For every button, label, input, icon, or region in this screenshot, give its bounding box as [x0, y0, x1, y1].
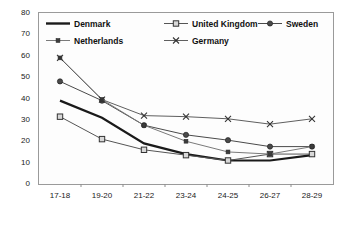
legend-item-denmark[interactable]: Denmark [45, 16, 110, 31]
data-point-marker [267, 21, 272, 26]
data-point-marker [173, 21, 178, 26]
data-point-marker [225, 158, 230, 163]
legend-label: Germany [192, 36, 229, 46]
data-point-marker [183, 152, 188, 157]
legend-swatch-icon [45, 35, 71, 46]
series-line [60, 58, 312, 124]
legend-swatch-icon [257, 18, 283, 29]
legend-swatch-icon [163, 18, 189, 29]
data-point-marker [267, 144, 272, 149]
data-point-marker [141, 147, 146, 152]
legend-label: Denmark [74, 19, 110, 29]
data-point-marker [184, 139, 188, 143]
data-point-marker [56, 39, 60, 43]
chart-legend: DenmarkUnited KingdomSwedenNetherlandsGe… [45, 16, 327, 50]
legend-label: Sweden [286, 19, 318, 29]
series-united-kingdom [57, 114, 314, 163]
legend-swatch-icon [45, 18, 71, 29]
series-line [60, 101, 312, 161]
data-point-marker [142, 123, 146, 127]
legend-swatch-icon [163, 35, 189, 46]
legend-row: DenmarkUnited KingdomSweden [45, 16, 327, 31]
data-point-marker [268, 152, 272, 156]
legend-label: Netherlands [74, 36, 123, 46]
legend-item-sweden[interactable]: Sweden [257, 16, 318, 31]
data-point-marker [99, 136, 104, 141]
data-point-marker [57, 79, 62, 84]
data-point-marker [225, 138, 230, 143]
legend-item-netherlands[interactable]: Netherlands [45, 33, 123, 48]
legend-item-united-kingdom[interactable]: United Kingdom [163, 16, 258, 31]
legend-label: United Kingdom [192, 19, 258, 29]
data-point-marker [183, 132, 188, 137]
line-chart: 01020304050607080 17-1819-2021-2223-2424… [0, 0, 349, 227]
series-netherlands [58, 56, 314, 156]
data-point-marker [226, 150, 230, 154]
legend-item-germany[interactable]: Germany [163, 33, 229, 48]
data-point-marker [310, 145, 314, 149]
series-sweden [57, 79, 314, 149]
data-point-marker [57, 114, 62, 119]
data-point-marker [309, 151, 314, 156]
legend-row: NetherlandsGermany [45, 33, 327, 48]
series-denmark [60, 101, 312, 161]
